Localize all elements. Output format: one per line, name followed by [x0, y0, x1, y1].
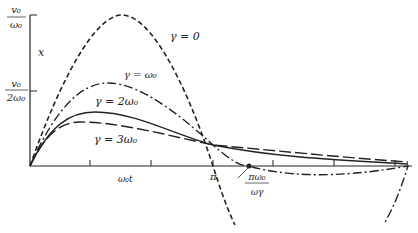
x-axis-label: ω₀t — [118, 174, 133, 184]
zero-crossing-marker — [247, 164, 252, 169]
curve-gamma-3 — [30, 122, 408, 166]
y-axis-label: x — [38, 46, 45, 59]
marker-label-den: ωγ — [251, 187, 264, 197]
y-tick-mid-den: 2ω₀ — [6, 92, 26, 103]
x-tick-pi-label: π — [209, 171, 217, 182]
label-gamma-3: γ = 3ω₀ — [94, 133, 138, 146]
label-gamma-2: γ = 2ω₀ — [95, 95, 139, 108]
curve-gamma-0 — [30, 15, 235, 225]
marker-leader-line — [238, 167, 249, 178]
label-gamma-1: γ = ω₀ — [124, 69, 157, 80]
y-tick-top-num: v₀ — [11, 4, 21, 15]
marker-label-num: πω₀ — [248, 172, 266, 182]
damped-oscillator-figure: v₀ ω₀ v₀ 2ω₀ x ω₀t π πω₀ ωγ γ = 0 γ = ω₀… — [0, 0, 418, 233]
y-tick-mid-num: v₀ — [11, 78, 21, 89]
label-gamma-0: γ = 0 — [170, 30, 200, 43]
y-tick-top-den: ω₀ — [10, 19, 22, 30]
curve-gamma-1 — [30, 83, 408, 222]
